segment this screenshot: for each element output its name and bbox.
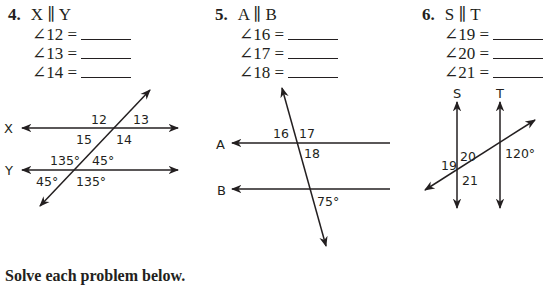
given-angle-45-upper: 45° bbox=[92, 153, 114, 168]
given-angle-135-lower: 135° bbox=[76, 174, 106, 189]
given-angle-75: 75° bbox=[317, 194, 339, 209]
angle-14-marker: 14 bbox=[116, 132, 132, 147]
angle-15-marker: 15 bbox=[76, 132, 92, 147]
line-a-label: A bbox=[216, 137, 225, 152]
line-b-label: B bbox=[217, 183, 226, 198]
line-y-label: Y bbox=[4, 163, 13, 178]
line-x-label: X bbox=[4, 121, 13, 136]
given-angle-135-upper: 135° bbox=[50, 153, 80, 168]
angle-20-marker: 20 bbox=[460, 149, 476, 164]
angle-21-marker: 21 bbox=[462, 173, 478, 188]
angle-13-marker: 13 bbox=[133, 112, 149, 127]
angle-18-marker: 18 bbox=[304, 146, 320, 161]
given-angle-120: 120° bbox=[505, 146, 535, 161]
given-angle-45-lower: 45° bbox=[36, 174, 58, 189]
section-instruction: Solve each problem below. bbox=[5, 267, 185, 285]
transversal-5 bbox=[282, 88, 326, 246]
angle-16-marker: 16 bbox=[273, 126, 289, 141]
line-t-label: T bbox=[495, 86, 504, 101]
problem-4-diagram: X Y 12 13 15 14 135° 45° 45° 135° bbox=[4, 90, 178, 206]
angle-19-marker: 19 bbox=[441, 158, 457, 173]
problem-5-diagram: A B 16 17 18 75° bbox=[216, 88, 390, 246]
line-s-label: S bbox=[453, 86, 461, 101]
angle-12-marker: 12 bbox=[91, 112, 107, 127]
angle-17-marker: 17 bbox=[299, 126, 315, 141]
problem-6-diagram: S T 19 20 21 120° bbox=[425, 86, 535, 208]
